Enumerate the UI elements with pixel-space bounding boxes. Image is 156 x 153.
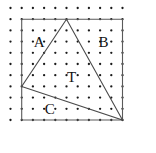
lattice-dot	[77, 96, 79, 98]
lattice-dot	[32, 63, 34, 65]
lattice-dot	[65, 63, 67, 65]
lattice-dot	[54, 29, 56, 31]
lattice-dot	[54, 63, 56, 65]
lattice-dot	[110, 74, 112, 76]
lattice-dot	[43, 7, 45, 9]
lattice-dot	[88, 96, 90, 98]
lattice-dot	[54, 40, 56, 42]
lattice-dot	[65, 96, 67, 98]
lattice-dot	[9, 52, 11, 54]
lattice-dot	[110, 63, 112, 65]
lattice-dot	[43, 74, 45, 76]
lattice-dot	[88, 63, 90, 65]
lattice-dot	[77, 7, 79, 9]
lattice-dot	[54, 85, 56, 87]
lattice-dot	[54, 74, 56, 76]
lattice-dot	[110, 85, 112, 87]
lattice-dot	[99, 63, 101, 65]
lattice-dot	[9, 18, 11, 20]
lattice-dot	[9, 63, 11, 65]
lattice-dot	[65, 29, 67, 31]
label-C: C	[45, 101, 55, 117]
lattice-dot	[43, 96, 45, 98]
lattice-dot	[43, 85, 45, 87]
lattice-dot	[77, 85, 79, 87]
label-B: B	[98, 34, 108, 50]
lattice-dot	[99, 74, 101, 76]
lattice-dot	[77, 74, 79, 76]
lattice-dot	[88, 74, 90, 76]
lattice-dot	[88, 7, 90, 9]
figure-canvas: ABTC	[0, 0, 156, 153]
lattice-dot	[65, 7, 67, 9]
lattice-dot	[65, 85, 67, 87]
lattice-dot	[9, 85, 11, 87]
lattice-dot	[110, 7, 112, 9]
lattice-dot	[65, 52, 67, 54]
lattice-dot	[77, 52, 79, 54]
lattice-dot	[99, 29, 101, 31]
lattice-dot	[32, 74, 34, 76]
lattice-dot	[32, 96, 34, 98]
lattice-dot	[32, 7, 34, 9]
lattice-dot	[99, 108, 101, 110]
lattice-dot	[9, 119, 11, 121]
lattice-dot	[9, 29, 11, 31]
label-A: A	[34, 34, 45, 50]
lattice-dot	[88, 85, 90, 87]
lattice-dot	[121, 7, 123, 9]
lattice-dot	[77, 29, 79, 31]
lattice-dot	[88, 40, 90, 42]
lattice-dot	[99, 7, 101, 9]
lattice-dot	[9, 74, 11, 76]
lattice-dot	[32, 52, 34, 54]
lattice-dot	[65, 108, 67, 110]
lattice-dot	[99, 96, 101, 98]
lattice-dot	[21, 7, 23, 9]
lattice-dot	[110, 29, 112, 31]
lattice-dot	[88, 52, 90, 54]
geometry-figure: ABTC	[0, 0, 156, 153]
dot-lattice	[9, 7, 123, 121]
lattice-dot	[99, 85, 101, 87]
lattice-dot	[110, 108, 112, 110]
lattice-dot	[43, 63, 45, 65]
lattice-dot	[9, 96, 11, 98]
lattice-dot	[9, 108, 11, 110]
lattice-dot	[9, 7, 11, 9]
lattice-dot	[32, 108, 34, 110]
lattice-dot	[54, 52, 56, 54]
lattice-dot	[32, 29, 34, 31]
lattice-dot	[110, 52, 112, 54]
lattice-dot	[65, 40, 67, 42]
lattice-dot	[43, 29, 45, 31]
lattice-dot	[88, 29, 90, 31]
lattice-dot	[54, 7, 56, 9]
lattice-dot	[32, 85, 34, 87]
lattice-dot	[110, 40, 112, 42]
lattice-dot	[77, 63, 79, 65]
lattice-dot	[77, 108, 79, 110]
lattice-dot	[99, 52, 101, 54]
lattice-dot	[9, 40, 11, 42]
label-T: T	[67, 69, 76, 85]
